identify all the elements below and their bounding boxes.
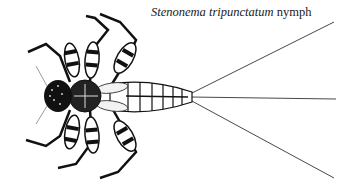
nymph-illustration <box>0 0 351 192</box>
cerci <box>190 22 336 178</box>
body <box>44 80 192 113</box>
